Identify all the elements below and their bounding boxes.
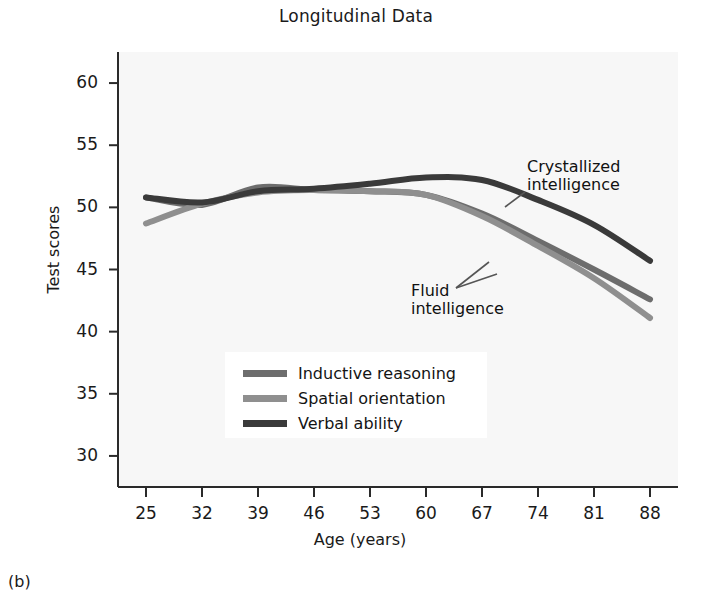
- legend-label: Verbal ability: [298, 414, 403, 433]
- x-tick-label: 74: [516, 503, 560, 523]
- y-tick-label: 35: [54, 383, 98, 403]
- legend-item: Verbal ability: [243, 411, 403, 435]
- legend-swatch: [243, 420, 287, 427]
- x-tick-label: 53: [348, 503, 392, 523]
- figure-panel: Longitudinal Data 30354045505560 2532394…: [0, 0, 712, 611]
- x-tick-label: 88: [628, 503, 672, 523]
- x-axis-title: Age (years): [120, 530, 600, 549]
- y-tick-label: 40: [54, 321, 98, 341]
- panel-label: (b): [8, 572, 31, 591]
- y-axis-ticks: [109, 83, 118, 456]
- legend-label: Spatial orientation: [298, 389, 446, 408]
- x-tick-label: 46: [292, 503, 336, 523]
- x-tick-label: 67: [460, 503, 504, 523]
- annotation-crystallized-intelligence: Crystallized intelligence: [527, 158, 620, 195]
- x-tick-label: 32: [180, 503, 224, 523]
- y-tick-label: 55: [54, 134, 98, 154]
- y-tick-label: 30: [54, 445, 98, 465]
- x-tick-label: 81: [572, 503, 616, 523]
- legend-swatch: [243, 370, 287, 377]
- legend-item: Inductive reasoning: [243, 361, 456, 385]
- legend-item: Spatial orientation: [243, 386, 446, 410]
- x-tick-label: 39: [236, 503, 280, 523]
- chart-legend: Inductive reasoningSpatial orientationVe…: [225, 352, 487, 438]
- y-tick-label: 60: [54, 72, 98, 92]
- annotation-fluid-intelligence: Fluid intelligence: [411, 282, 504, 319]
- x-axis-ticks: [146, 487, 650, 497]
- x-tick-label: 60: [404, 503, 448, 523]
- y-axis-title: Test scores: [44, 190, 63, 310]
- legend-label: Inductive reasoning: [298, 364, 456, 383]
- legend-swatch: [243, 395, 287, 402]
- x-tick-label: 25: [124, 503, 168, 523]
